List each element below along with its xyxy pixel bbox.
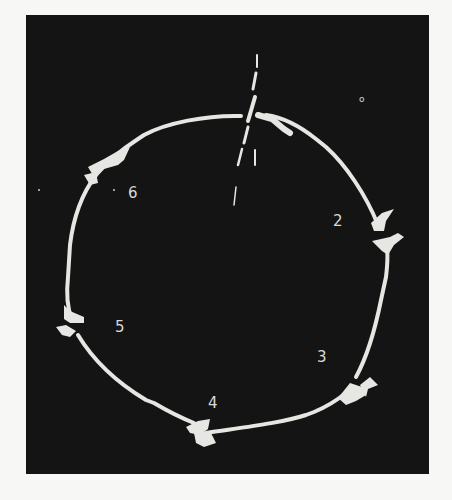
marker-label-2: 2 [333,214,343,229]
marker-label-3: 3 [317,350,327,365]
oscilloscope-panel: o 2 3 4 5 6 [26,15,429,474]
circular-trace-graphic [26,15,429,474]
marker-label-6: 6 [128,186,138,201]
marker-label-5: 5 [115,320,125,335]
marker-label-0: o [359,95,365,104]
marker-label-4: 4 [208,396,218,411]
marker-pips [56,147,404,447]
top-burst [234,55,290,205]
